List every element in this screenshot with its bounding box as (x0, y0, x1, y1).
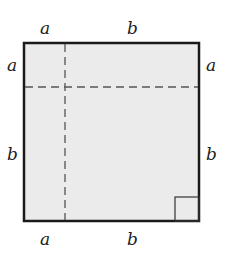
label-right-b: b (206, 146, 217, 163)
label-bottom-b: b (127, 231, 138, 248)
label-top-b: b (127, 20, 138, 37)
label-right-a: a (206, 57, 216, 74)
outer-square (24, 43, 199, 221)
square-diagram (0, 0, 231, 253)
label-left-a: a (7, 57, 17, 74)
label-bottom-a: a (40, 231, 50, 248)
label-top-a: a (40, 20, 50, 37)
label-left-b: b (7, 146, 18, 163)
